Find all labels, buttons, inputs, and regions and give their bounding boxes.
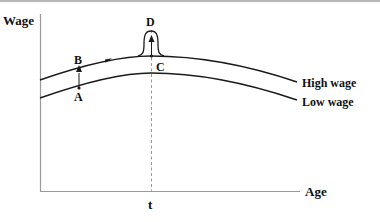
time-marker-label: t [148,197,153,212]
low-wage-label: Low wage [302,95,354,109]
point-c-label: C [156,60,165,74]
high-wage-label: High wage [302,76,357,90]
y-axis-label: Wage [3,13,34,28]
wage-age-diagram: Wage Age t A B C D High wage Low wage [0,0,380,222]
point-d-label: D [146,15,155,29]
point-c-dot [150,54,153,57]
point-a-label: A [74,90,83,104]
point-b-dot [77,67,80,70]
x-axis-label: Age [305,184,327,199]
c-to-d-arrowhead-icon [149,35,155,42]
point-b-label: B [74,53,82,67]
